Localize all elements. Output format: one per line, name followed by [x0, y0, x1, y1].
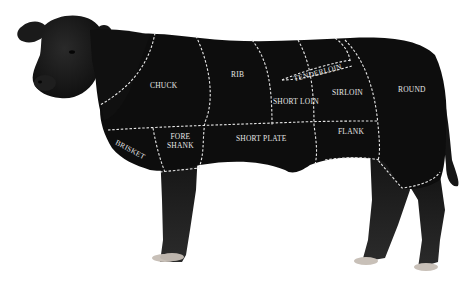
beef-cuts-diagram: CHUCK RIB TENDERLOIN SHORT LOIN SIRLOIN …: [0, 0, 476, 281]
eye: [69, 50, 75, 54]
muzzle: [34, 75, 56, 91]
cut-label-short-plate: SHORT PLATE: [236, 134, 287, 143]
cut-label-fore-shank: FORE SHANK: [167, 132, 194, 150]
cow-body: [95, 33, 447, 189]
cut-label-chuck: CHUCK: [150, 81, 177, 90]
hoof-hind-right: [414, 263, 438, 271]
cut-label-fore-shank-line1: FORE: [167, 132, 194, 141]
cut-label-rib: RIB: [231, 70, 244, 79]
cut-label-round: ROUND: [398, 85, 426, 94]
cut-label-flank: FLANK: [338, 127, 364, 136]
cut-label-fore-shank-line2: SHANK: [167, 141, 194, 150]
cut-label-short-loin: SHORT LOIN: [273, 97, 319, 106]
nostril: [38, 81, 42, 84]
hoof-hind-left: [354, 257, 378, 265]
cut-label-sirloin: SIRLOIN: [332, 88, 363, 97]
